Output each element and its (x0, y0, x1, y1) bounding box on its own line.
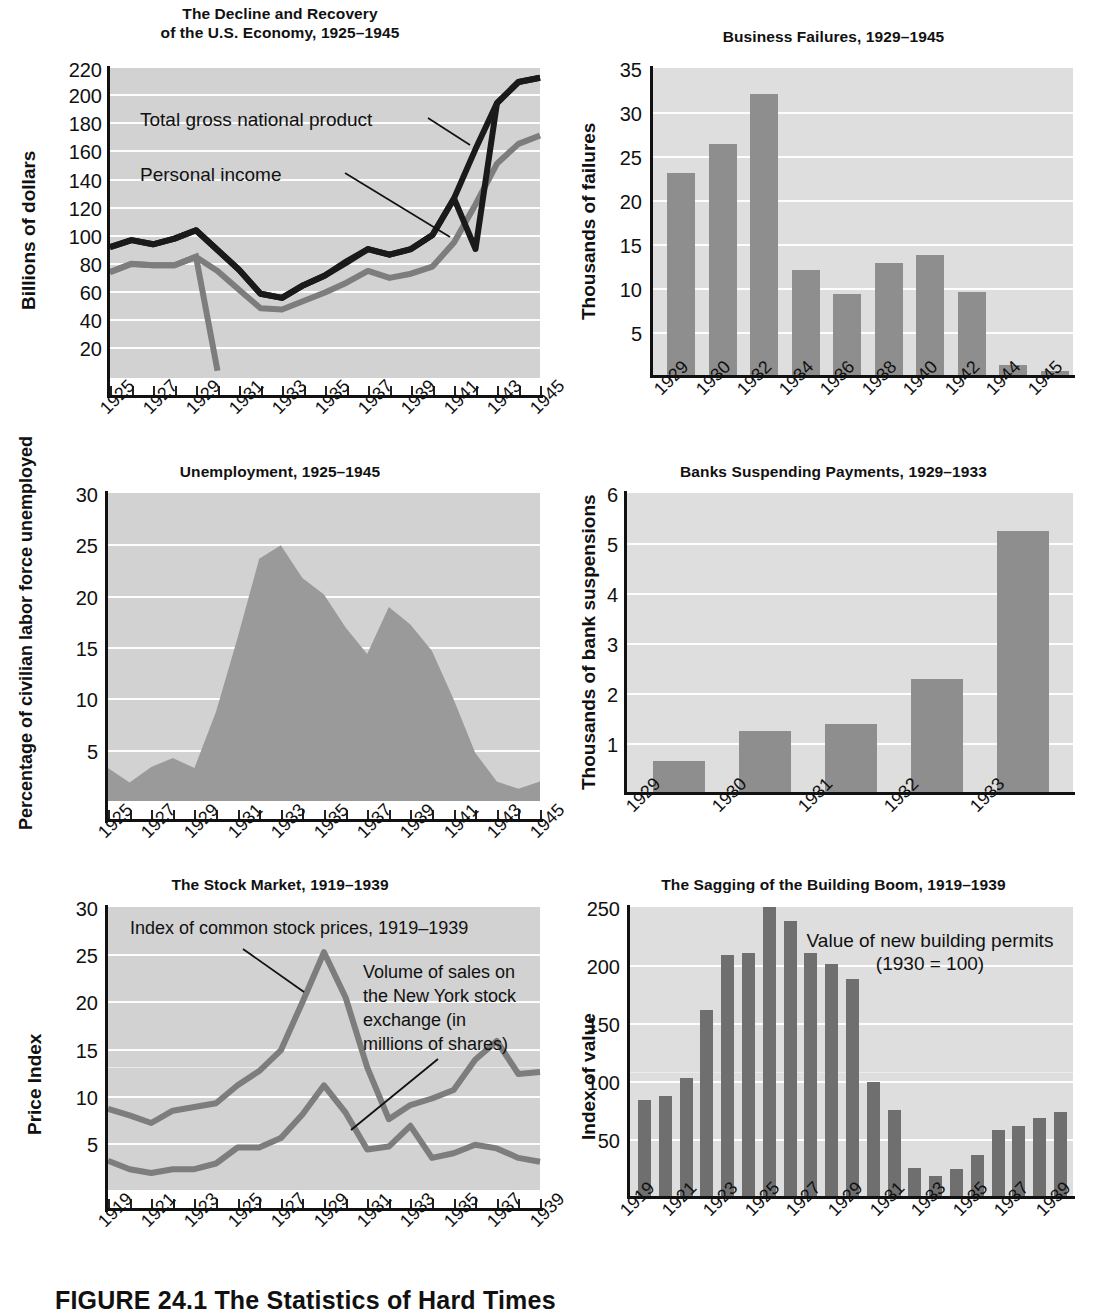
y-tick: 20 (592, 191, 642, 214)
y-tick: 1 (578, 734, 618, 757)
annotation-gnp-label: Total gross national product (140, 108, 372, 131)
annotation-stock-volume-label: Volume of sales on the New York stock ex… (363, 960, 523, 1056)
y-tick: 4 (578, 584, 618, 607)
y-tick: 5 (578, 534, 618, 557)
y-tick: 25 (48, 945, 98, 968)
series-stock-volume (108, 1085, 540, 1173)
chart-title-line1: Banks Suspending Payments, 1929–1933 (560, 462, 1107, 481)
y-tick: 100 (560, 1072, 620, 1095)
x-tick-label: 1925 (224, 1189, 267, 1232)
y-tick: 200 (42, 85, 102, 108)
y-tick: 10 (48, 689, 98, 712)
y-tick: 30 (48, 898, 98, 921)
bar (825, 964, 838, 1197)
y-axis-label-stock-market: Price Index (24, 1034, 46, 1135)
y-tick: 120 (42, 197, 102, 220)
area-unemployment (108, 545, 540, 801)
y-axis-stock-market (105, 905, 108, 1212)
y-tick: 20 (48, 992, 98, 1015)
y-tick: 35 (592, 59, 642, 82)
y-axis-label-gnp: Billions of dollars (18, 151, 40, 310)
chart-title-line1: The Stock Market, 1919–1939 (0, 875, 560, 894)
bar (846, 979, 859, 1197)
y-tick: 150 (560, 1014, 620, 1037)
y-tick: 250 (560, 898, 620, 921)
y-tick: 180 (42, 113, 102, 136)
y-tick: 10 (48, 1086, 98, 1109)
y-axis-label-unemployment: Percentage of civilian labor force unemp… (16, 436, 37, 830)
bar (742, 953, 755, 1197)
bar (750, 94, 778, 376)
chart-title-line1: Unemployment, 1925–1945 (0, 462, 560, 481)
series-personal-income-full (110, 136, 540, 310)
y-tick: 100 (42, 225, 102, 248)
bar (1033, 1118, 1046, 1197)
y-axis-business-failures (650, 66, 653, 378)
bar (911, 679, 963, 793)
chart-panel-bank-suspensions: Banks Suspending Payments, 1929–1933 Tho… (560, 440, 1107, 880)
y-tick: 6 (578, 484, 618, 507)
y-tick: 3 (578, 634, 618, 657)
y-tick: 40 (42, 310, 102, 333)
y-tick: 2 (578, 684, 618, 707)
chart-title-unemployment: Unemployment, 1925–1945 (0, 462, 560, 481)
y-tick: 5 (48, 1133, 98, 1156)
chart-title-building-boom: The Sagging of the Building Boom, 1919–1… (560, 875, 1107, 894)
y-tick: 60 (42, 282, 102, 305)
y-tick: 30 (592, 103, 642, 126)
y-tick: 20 (48, 586, 98, 609)
bar (721, 955, 734, 1197)
y-tick: 200 (560, 956, 620, 979)
bar (709, 144, 737, 376)
y-tick: 15 (592, 235, 642, 258)
chart-panel-stock-market: The Stock Market, 1919–1939 Price Index … (0, 880, 560, 1309)
bar (867, 1082, 880, 1197)
y-tick: 30 (48, 484, 98, 507)
x-tick-label: 1935 (440, 1189, 483, 1232)
chart-panel-gnp: The Decline and Recovery of the U.S. Eco… (0, 0, 560, 440)
y-tick: 10 (592, 279, 642, 302)
annotation-personal-income-label: Personal income (140, 163, 282, 186)
plot-area-business-failures (653, 68, 1073, 376)
annotation-line2: (1930 = 100) (795, 952, 1065, 975)
y-axis-bank-suspensions (624, 491, 627, 795)
leader-line-stock-price-index (243, 949, 304, 992)
gridline (653, 112, 1073, 114)
bar (992, 1130, 1005, 1197)
plot-area-stock-market: Index of common stock prices, 1919–1939 … (108, 907, 540, 1190)
plot-area-building-boom: Value of new building permits (1930 = 10… (630, 907, 1073, 1197)
bar (825, 724, 877, 794)
y-tick: 5 (592, 323, 642, 346)
bar (763, 907, 776, 1197)
y-tick: 25 (592, 147, 642, 170)
y-tick: 50 (560, 1130, 620, 1153)
chart-panel-business-failures: Business Failures, 1929–1945 Thousands o… (560, 0, 1107, 440)
leader-line-personal-income (345, 173, 450, 237)
chart-title-line1: The Decline and Recovery (0, 4, 560, 23)
figure-caption: FIGURE 24.1 The Statistics of Hard Times (55, 1286, 556, 1309)
plot-area-gnp: Total gross national product Personal in… (110, 68, 540, 378)
annotation-building-permits: Value of new building permits (1930 = 10… (795, 929, 1065, 975)
y-axis-gnp (107, 66, 110, 398)
y-tick: 80 (42, 253, 102, 276)
x-axis-bank-suspensions (624, 792, 1075, 795)
x-tick-label: 1941 (440, 800, 483, 843)
bar (667, 173, 695, 376)
plot-area-unemployment (108, 493, 540, 801)
y-tick: 20 (42, 338, 102, 361)
y-tick: 25 (48, 535, 98, 558)
y-tick: 15 (48, 1039, 98, 1062)
annotation-line1: Value of new building permits (795, 929, 1065, 952)
leader-line-gnp (428, 118, 470, 145)
chart-title-stock-market: The Stock Market, 1919–1939 (0, 875, 560, 894)
bar (700, 1010, 713, 1197)
bar (659, 1096, 672, 1197)
chart-title-line1: The Sagging of the Building Boom, 1919–1… (560, 875, 1107, 894)
series-personal-income (110, 257, 218, 371)
bar (916, 255, 944, 376)
y-tick: 15 (48, 638, 98, 661)
chart-title-line1: Business Failures, 1929–1945 (560, 27, 1107, 46)
plot-area-bank-suspensions (627, 493, 1073, 793)
annotation-stock-price-index-label: Index of common stock prices, 1919–1939 (130, 917, 468, 940)
y-tick: 140 (42, 169, 102, 192)
